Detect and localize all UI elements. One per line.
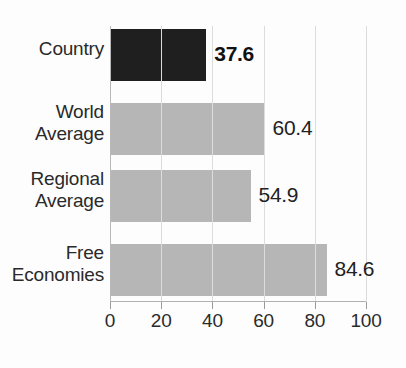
x-tick-mark-0 [110, 302, 111, 309]
bar-world-average [110, 103, 265, 155]
x-tick-label-80: 80 [290, 310, 340, 332]
x-tick-label-20: 20 [136, 310, 186, 332]
bar-country [110, 29, 206, 81]
category-label-regional-average: Regional Average [0, 168, 104, 212]
category-label-line1: Regional [0, 168, 104, 190]
x-tick-label-60: 60 [239, 310, 289, 332]
x-axis-line [110, 301, 366, 302]
bar-regional-average [110, 170, 251, 222]
gridline-20 [161, 26, 162, 302]
gridline-40 [212, 26, 213, 302]
category-label-country: Country [0, 38, 104, 60]
category-label-line1: Country [0, 38, 104, 60]
value-label-free-economies: 84.6 [335, 257, 375, 281]
x-tick-mark-20 [161, 302, 162, 309]
category-label-line1: World [0, 101, 104, 123]
category-label-line2: Economies [0, 264, 104, 286]
x-tick-mark-80 [315, 302, 316, 309]
y-axis-line [110, 26, 111, 302]
x-tick-mark-60 [264, 302, 265, 309]
x-tick-label-40: 40 [187, 310, 237, 332]
x-tick-label-100: 100 [341, 310, 391, 332]
value-label-regional-average: 54.9 [259, 183, 299, 207]
x-tick-mark-40 [212, 302, 213, 309]
x-tick-mark-100 [366, 302, 367, 309]
category-label-line2: Average [0, 190, 104, 212]
category-label-line2: Average [0, 123, 104, 145]
category-label-line1: Free [0, 242, 104, 264]
x-tick-label-0: 0 [85, 310, 135, 332]
chart-title-cropped [0, 0, 406, 9]
gridline-60 [264, 26, 265, 302]
value-label-country: 37.6 [214, 42, 254, 66]
category-label-world-average: World Average [0, 101, 104, 145]
plot-area [110, 26, 366, 302]
category-label-free-economies: Free Economies [0, 242, 104, 286]
gridline-80 [315, 26, 316, 302]
bar-free-economies [110, 244, 327, 296]
bar-chart: Country World Average Regional Average F… [0, 0, 406, 368]
value-label-world-average: 60.4 [273, 116, 313, 140]
